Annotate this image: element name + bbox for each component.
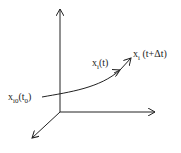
trajectory-diagram: xi0(t0) xi(t) xi (t+Δt) <box>0 0 181 153</box>
label-current-position: xi(t) <box>92 57 108 71</box>
diagram-svg <box>0 0 181 153</box>
trajectory-curve <box>42 70 120 97</box>
label-start-position: xi0(t0) <box>8 91 31 105</box>
end-arrow <box>120 58 131 70</box>
depth-axis <box>32 112 60 138</box>
label-next-position: xi (t+Δt) <box>133 48 167 62</box>
